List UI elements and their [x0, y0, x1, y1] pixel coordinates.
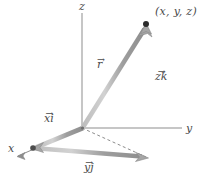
axis-label-x: x [8, 143, 14, 154]
vector-arrowheads [17, 23, 152, 162]
vector-label-yj: →yj [84, 162, 94, 173]
xi-vector-shaft [36, 128, 83, 147]
vector-shafts [33, 29, 146, 157]
r-vector-shaft [83, 29, 145, 128]
axis-label-y: y [186, 123, 192, 134]
x-axis-arrowhead [17, 153, 25, 160]
tip-point-dot [143, 21, 149, 27]
point-label-tip: (x, y, z) [155, 6, 197, 17]
axis-lines [18, 13, 182, 156]
vector-label-xi: →xi [44, 113, 54, 124]
x-component-end-dot [30, 145, 36, 151]
origin-dot [81, 126, 84, 129]
vector-label-zk: →zk [155, 71, 167, 82]
axis-label-z: z [79, 1, 85, 12]
yj-vector-shaft [33, 148, 142, 157]
vector-label-r: →r [97, 59, 102, 70]
vector-diagram-canvas [0, 0, 206, 182]
